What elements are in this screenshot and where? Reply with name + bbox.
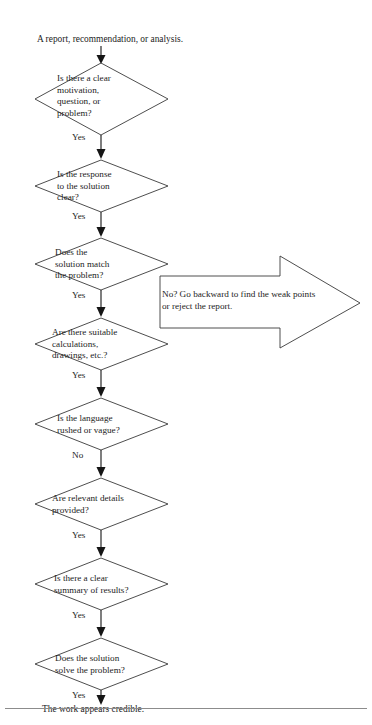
decision-label-d6: Are relevant details provided? — [52, 493, 164, 516]
edge-label-d5-no: No — [72, 450, 83, 461]
edge-label-d7-yes: Yes — [72, 610, 85, 621]
connector-d3-to-d4 — [97, 290, 106, 317]
connector-d2-to-d3 — [97, 212, 106, 237]
edge-label-d6-yes: Yes — [72, 530, 85, 541]
edge-label-d8-yes: Yes — [72, 690, 85, 701]
connector-d7-to-d8 — [97, 610, 106, 637]
decision-label-d3: Does the solution match the problem? — [55, 247, 160, 282]
end-label: The work appears credible. — [42, 703, 144, 715]
connector-d4-to-d5 — [97, 370, 106, 397]
connector-d6-to-d7 — [97, 530, 106, 557]
flowchart-canvas — [0, 0, 372, 725]
decision-label-d1: Is there a clear motivation, question, o… — [57, 73, 162, 119]
edge-label-d2-yes: Yes — [72, 211, 85, 222]
flowchart-diagram: A report, recommendation, or analysis. I… — [0, 0, 372, 725]
edge-label-d4-yes: Yes — [72, 370, 85, 381]
connector-d5-to-d6 — [97, 450, 106, 477]
edge-label-d1-yes: Yes — [72, 132, 85, 143]
start-label: A report, recommendation, or analysis. — [37, 33, 183, 45]
backward-arrow-label: No? Go backward to find the weak points … — [162, 288, 352, 313]
decision-label-d7: Is there a clear summary of results? — [54, 573, 166, 596]
connector-d1-to-d2 — [97, 135, 106, 159]
decision-label-d8: Does the solution solve the problem? — [55, 653, 167, 676]
decision-label-d5: Is the language rushed or vague? — [57, 413, 167, 436]
footer-divider — [5, 708, 367, 709]
decision-label-d2: Is the response to the solution clear? — [57, 169, 162, 204]
edge-label-d3-yes: Yes — [72, 290, 85, 301]
decision-label-d4: Are there suitable calculations, drawing… — [52, 327, 162, 362]
connector-start-to-d1 — [97, 46, 106, 64]
